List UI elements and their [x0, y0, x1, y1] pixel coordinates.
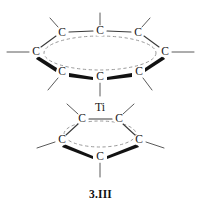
cot-atom-c5: C — [135, 65, 143, 77]
cp-substituent-2 — [123, 104, 134, 114]
cot-bond-c8-c1 — [41, 36, 56, 47]
cot-substituent-7 — [48, 78, 58, 90]
cot-atom-c1: C — [58, 26, 66, 38]
cot-atom-c2: C — [96, 24, 104, 36]
cyclopentadienyl-ring: C C C C C — [37, 104, 164, 177]
cot-atom-c8: C — [32, 45, 40, 57]
figure-caption: 3.III — [0, 188, 201, 200]
cot-substituent-3 — [142, 18, 150, 27]
cot-atom-c4: C — [161, 45, 169, 57]
cot-bond-c3-c4 — [144, 36, 159, 47]
cot-atom-c7: C — [58, 65, 66, 77]
structure-diagram: C C C C C C C C Ti — [0, 0, 201, 190]
cyclooctatetraene-ring: C C C C C C C C — [7, 13, 194, 96]
cp-substituent-3 — [146, 142, 164, 148]
cot-substituent-5 — [143, 78, 152, 90]
cp-substituent-1 — [67, 104, 78, 114]
cot-bond-c7-c6-wedge — [69, 73, 93, 80]
cot-substituent-1 — [50, 18, 58, 27]
cot-bond-c2-c3 — [107, 31, 131, 32]
cp-atom-c5: C — [58, 133, 66, 145]
cp-atom-c2: C — [115, 112, 123, 124]
chemical-structure-figure: C C C C C C C C Ti — [0, 0, 201, 215]
cot-atom-labels: C C C C C C C C — [32, 24, 169, 82]
cp-atom-c1: C — [78, 112, 86, 124]
cp-ring-ellipse — [64, 121, 136, 147]
cot-bond-c5-c4-wedge — [145, 56, 165, 72]
metal-label-ti: Ti — [95, 100, 106, 114]
cp-atom-c4: C — [96, 150, 104, 162]
metal-center: Ti — [95, 100, 106, 114]
cp-substituent-bonds — [37, 104, 164, 177]
cp-atom-c3: C — [135, 133, 143, 145]
cp-bond-c4-c3-wedge — [107, 144, 139, 159]
cot-bond-c1-c2 — [69, 31, 93, 32]
cot-atom-c6: C — [96, 70, 104, 82]
cot-bond-c6-c5-wedge — [107, 73, 132, 80]
cp-substituent-5 — [37, 142, 55, 148]
cot-atom-c3: C — [134, 26, 142, 38]
